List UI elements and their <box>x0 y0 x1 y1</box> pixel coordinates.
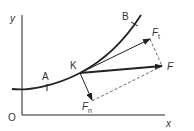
y-axis-label: y <box>9 13 16 24</box>
origin-label: O <box>8 112 16 123</box>
force-f-label: F <box>167 61 174 72</box>
force-decomposition-diagram: y x O A K B F F t F n <box>0 0 194 131</box>
point-k-label: K <box>70 60 77 71</box>
point-a-label: A <box>42 71 49 82</box>
normal-force-arrow <box>80 73 92 100</box>
trajectory-curve <box>12 15 141 89</box>
svg-text:n: n <box>88 107 92 114</box>
x-axis-label: x <box>165 118 172 129</box>
svg-text:t: t <box>158 33 160 40</box>
force-ft-label: F t <box>152 27 160 40</box>
dashed-ft-to-f <box>150 39 162 66</box>
point-b-label: B <box>122 11 129 22</box>
force-fn-label: F n <box>82 101 92 114</box>
